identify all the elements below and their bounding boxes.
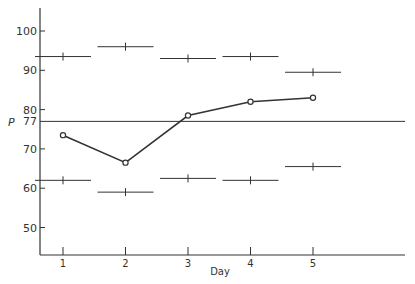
- data-point: [185, 113, 190, 118]
- y-tick-label: 70: [23, 143, 37, 156]
- data-point: [123, 160, 128, 165]
- y-tick-label: 50: [23, 222, 37, 235]
- x-axis-label: Day: [210, 266, 230, 277]
- data-point: [60, 133, 65, 138]
- y-tick-label: 90: [23, 64, 37, 77]
- y-tick-label: 100: [16, 25, 37, 38]
- data-point: [310, 95, 315, 100]
- data-line: [63, 98, 313, 163]
- y-axis-label: P: [8, 116, 15, 129]
- x-tick-label: 4: [247, 258, 253, 269]
- x-tick-label: 1: [60, 258, 66, 269]
- x-tick-label: 2: [122, 258, 128, 269]
- x-tick-label: 5: [310, 258, 316, 269]
- data-point: [248, 99, 253, 104]
- reference-line-label: 77: [23, 115, 37, 128]
- y-tick-label: 60: [23, 182, 37, 195]
- x-tick-label: 3: [185, 258, 191, 269]
- chart: 506070809010077P12345Day: [0, 0, 415, 284]
